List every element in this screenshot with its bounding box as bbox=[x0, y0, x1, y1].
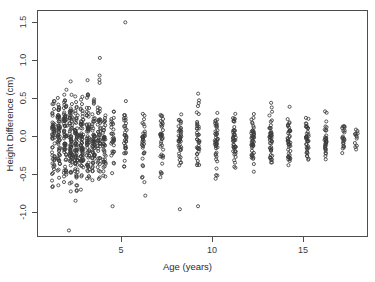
y-tick-mark-1.0 bbox=[32, 60, 37, 61]
y-tick-mark-0.0 bbox=[32, 136, 37, 137]
plot-panel bbox=[37, 10, 368, 237]
x-tick-label-10: 10 bbox=[207, 245, 217, 255]
y-tick-mark--1.0 bbox=[32, 212, 37, 213]
y-tick-mark-0.5 bbox=[32, 98, 37, 99]
y-tick-label--1.0: -1.0 bbox=[18, 204, 28, 220]
y-tick-mark--0.5 bbox=[32, 174, 37, 175]
x-tick-label-15: 15 bbox=[298, 245, 308, 255]
x-tick-mark-5 bbox=[121, 237, 122, 242]
y-tick-label-1.0: 1.0 bbox=[18, 54, 28, 67]
x-tick-mark-15 bbox=[303, 237, 304, 242]
y-axis-title: Height Difference (cm) bbox=[4, 77, 15, 172]
x-axis-title: Age (years) bbox=[0, 261, 375, 272]
scatter-plot-figure: 5 10 15 1.5 1.0 0.5 0.0 -0.5 -1.0 Age (y… bbox=[0, 0, 375, 282]
y-tick-label-1.5: 1.5 bbox=[18, 16, 28, 29]
x-tick-mark-10 bbox=[212, 237, 213, 242]
y-tick-label-0.5: 0.5 bbox=[18, 92, 28, 105]
y-tick-label--0.5: -0.5 bbox=[18, 166, 28, 182]
data-points-layer bbox=[38, 11, 367, 236]
y-tick-mark-1.5 bbox=[32, 22, 37, 23]
y-tick-label-0.0: 0.0 bbox=[18, 130, 28, 143]
x-tick-label-5: 5 bbox=[118, 245, 123, 255]
